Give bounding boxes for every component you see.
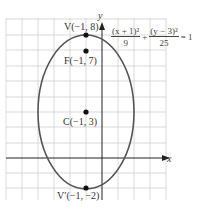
term2-denominator: 25 — [160, 37, 169, 48]
term2-numerator: (y − 3)² — [149, 26, 178, 37]
ellipse-equation: (x + 1)² 9 + (y − 3)² 25 = 1 — [111, 26, 192, 48]
equation-term2: (y − 3)² 25 — [149, 26, 178, 48]
vertex-prime-label: V′(−1, −2) — [57, 191, 99, 201]
focus-label: F(−1, 7) — [64, 56, 97, 66]
equation-term1: (x + 1)² 9 — [111, 26, 140, 48]
term1-denominator: 9 — [123, 37, 128, 48]
term1-numerator: (x + 1)² — [111, 26, 140, 37]
x-axis-label: x — [167, 154, 171, 164]
vertex-label: V(−1, 8) — [64, 22, 99, 32]
y-axis-label: y — [98, 11, 102, 21]
plus-sign: + — [142, 32, 147, 42]
center-label: C(−1, 3) — [63, 117, 97, 127]
equation-rhs: = 1 — [181, 32, 193, 42]
